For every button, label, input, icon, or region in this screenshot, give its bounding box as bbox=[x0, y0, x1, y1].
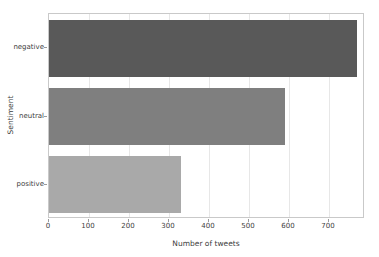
y-tick-label-negative: negative bbox=[0, 43, 44, 51]
y-tick-mark-negative bbox=[44, 47, 47, 48]
y-tick-mark-neutral bbox=[44, 116, 47, 117]
x-tick-label-400: 400 bbox=[201, 222, 214, 230]
x-axis-title: Number of tweets bbox=[172, 239, 239, 248]
bar-neutral bbox=[49, 88, 285, 145]
x-tick-label-200: 200 bbox=[121, 222, 134, 230]
sentiment-bar-chart: Sentiment negativeneutralpositive 010020… bbox=[0, 0, 379, 257]
x-tick-label-700: 700 bbox=[321, 222, 334, 230]
x-tick-label-600: 600 bbox=[281, 222, 294, 230]
plot-area bbox=[48, 13, 364, 218]
x-tick-label-300: 300 bbox=[161, 222, 174, 230]
y-tick-mark-positive bbox=[44, 184, 47, 185]
y-tick-label-neutral: neutral bbox=[0, 112, 44, 120]
bar-positive bbox=[49, 156, 181, 213]
x-tick-label-100: 100 bbox=[81, 222, 94, 230]
x-tick-label-500: 500 bbox=[241, 222, 254, 230]
x-tick-label-0: 0 bbox=[46, 222, 50, 230]
y-tick-label-positive: positive bbox=[0, 180, 44, 188]
bar-negative bbox=[49, 20, 357, 77]
